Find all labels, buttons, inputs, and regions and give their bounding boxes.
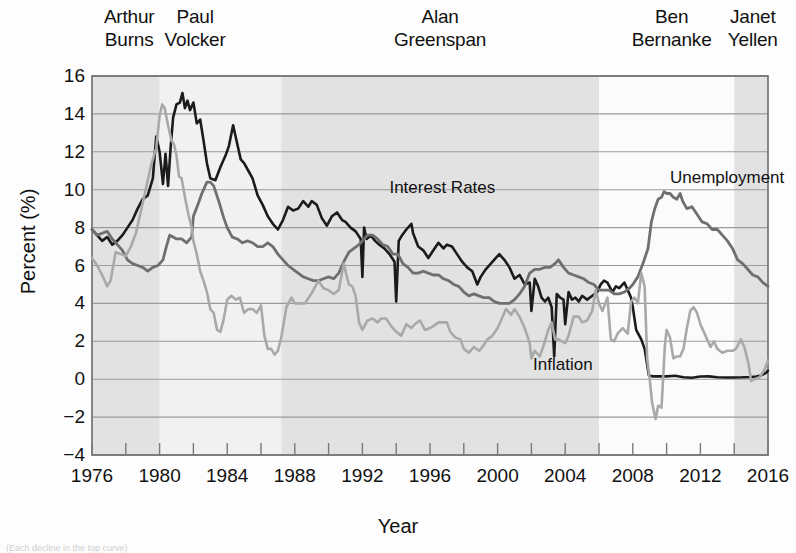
y-tick-label: 8 [74,218,85,237]
x-tick-label: 1992 [332,466,392,485]
series-annotation-inflation: Inflation [533,356,593,373]
y-tick-label: −2 [63,407,85,426]
x-tick-label: 2008 [603,466,663,485]
x-tick-label: 2016 [738,466,796,485]
y-tick-label: −4 [63,445,85,464]
footnote-text: (Each decline in the top curve) [6,543,128,553]
era-label-paul-volcker: Paul Volcker [125,5,265,51]
x-tick-label: 1976 [62,466,122,485]
x-tick-label: 1980 [130,466,190,485]
y-tick-label: 0 [74,369,85,388]
chart-figure: Arthur Burns Paul Volcker Alan Greenspan… [0,0,796,553]
y-tick-label: 10 [64,180,85,199]
era-label-alan-greenspan: Alan Greenspan [370,5,510,51]
x-tick-label: 2012 [670,466,730,485]
y-tick-label: 12 [64,142,85,161]
y-tick-label: 2 [74,331,85,350]
y-tick-label: 6 [74,256,85,275]
era-label-janet-yellen: Janet Yellen [683,5,796,51]
y-tick-label: 14 [64,104,85,123]
x-tick-label: 1984 [197,466,257,485]
x-tick-label: 2004 [535,466,595,485]
x-tick-label: 1988 [265,466,325,485]
series-annotation-unemployment: Unemployment [670,169,784,186]
y-tick-label: 4 [74,293,85,312]
x-tick-label: 1996 [400,466,460,485]
x-axis-title: Year [348,515,448,538]
series-annotation-interest-rates: Interest Rates [389,179,495,196]
y-tick-label: 16 [64,66,85,85]
x-tick-label: 2000 [468,466,528,485]
